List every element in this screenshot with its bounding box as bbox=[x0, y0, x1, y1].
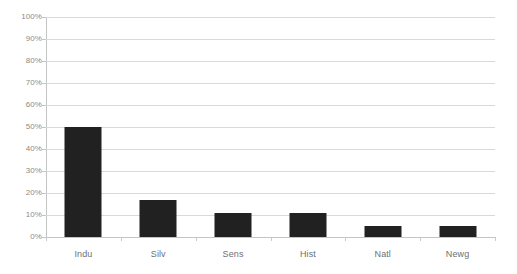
bar-slot bbox=[345, 17, 420, 237]
x-tick-mark bbox=[420, 237, 421, 241]
y-tick-label: 10% bbox=[2, 211, 42, 219]
bar-slot bbox=[196, 17, 271, 237]
y-tick-label: 0% bbox=[2, 233, 42, 241]
y-tick-label: 40% bbox=[2, 145, 42, 153]
x-tick-mark bbox=[196, 237, 197, 241]
y-tick-label: 20% bbox=[2, 189, 42, 197]
x-tick-mark bbox=[271, 237, 272, 241]
bar-slot bbox=[271, 17, 346, 237]
y-tick-mark bbox=[42, 127, 46, 128]
x-axis-label-hist: Hist bbox=[300, 249, 316, 259]
bar-slot bbox=[420, 17, 495, 237]
bar-newg[interactable] bbox=[439, 226, 476, 237]
y-tick-mark bbox=[42, 149, 46, 150]
y-tick-label: 60% bbox=[2, 101, 42, 109]
x-label-slot: Newg bbox=[420, 243, 495, 261]
x-axis-label-indu: Indu bbox=[74, 249, 92, 259]
x-axis-label-natl: Natl bbox=[375, 249, 391, 259]
y-tick-label: 30% bbox=[2, 167, 42, 175]
x-label-slot: Indu bbox=[46, 243, 121, 261]
y-tick-label: 80% bbox=[2, 57, 42, 65]
y-tick-mark bbox=[42, 83, 46, 84]
y-tick-mark bbox=[42, 105, 46, 106]
y-axis-tick-labels: 0%10%20%30%40%50%60%70%80%90%100% bbox=[0, 0, 42, 274]
x-label-slot: Sens bbox=[196, 243, 271, 261]
bar-indu[interactable] bbox=[65, 127, 102, 237]
y-tick-mark bbox=[42, 61, 46, 62]
x-axis-label-silv: Silv bbox=[151, 249, 166, 259]
bar-slot bbox=[121, 17, 196, 237]
y-tick-mark bbox=[42, 193, 46, 194]
y-tick-label: 70% bbox=[2, 79, 42, 87]
bar-slot bbox=[46, 17, 121, 237]
bar-natl[interactable] bbox=[364, 226, 401, 237]
x-label-slot: Silv bbox=[121, 243, 196, 261]
bars-layer bbox=[46, 17, 495, 237]
x-axis-category-labels: InduSilvSensHistNatlNewg bbox=[46, 243, 495, 263]
y-tick-mark bbox=[42, 17, 46, 18]
y-tick-label: 90% bbox=[2, 35, 42, 43]
x-label-slot: Natl bbox=[345, 243, 420, 261]
x-tick-mark bbox=[121, 237, 122, 241]
y-tick-mark bbox=[42, 215, 46, 216]
bar-sens[interactable] bbox=[215, 213, 252, 237]
bar-hist[interactable] bbox=[289, 213, 326, 237]
y-tick-mark bbox=[42, 39, 46, 40]
x-tick-mark bbox=[345, 237, 346, 241]
x-label-slot: Hist bbox=[271, 243, 346, 261]
y-tick-label: 50% bbox=[2, 123, 42, 131]
x-tick-mark bbox=[46, 237, 47, 241]
x-axis-label-newg: Newg bbox=[446, 249, 469, 259]
y-tick-label: 100% bbox=[2, 13, 42, 21]
bar-chart: 0%10%20%30%40%50%60%70%80%90%100% InduSi… bbox=[0, 0, 517, 274]
x-tick-mark bbox=[495, 237, 496, 241]
y-tick-mark bbox=[42, 171, 46, 172]
bar-silv[interactable] bbox=[140, 200, 177, 237]
x-axis-label-sens: Sens bbox=[223, 249, 244, 259]
